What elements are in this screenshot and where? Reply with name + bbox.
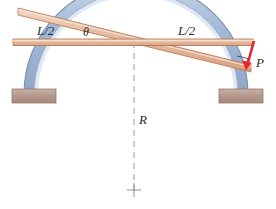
label-span-left: L/2 <box>37 24 54 37</box>
center-cross-mark <box>127 183 141 197</box>
circular-arch <box>24 0 248 94</box>
horizontal-chord-beam <box>13 39 253 46</box>
label-load-P: P <box>256 56 264 69</box>
label-angle-theta: θ <box>83 26 89 38</box>
label-span-right: L/2 <box>178 24 195 37</box>
right-support-block <box>219 89 263 103</box>
arch-load-diagram: L/2 θ L/2 R P <box>0 0 276 209</box>
left-support-block <box>12 89 56 103</box>
label-radius-R: R <box>139 113 147 126</box>
